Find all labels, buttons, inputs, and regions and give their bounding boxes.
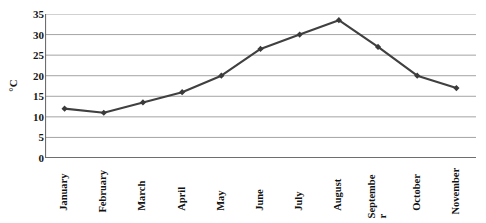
data-point-marker [101, 110, 107, 116]
data-point-marker [140, 99, 146, 105]
axis-lines [45, 14, 476, 158]
x-axis-tick-labels: JanuaryFebruaryMarchAprilMayJuneJulyAugu… [45, 160, 476, 223]
x-tick-label-text: October [412, 172, 423, 211]
x-tick-label: Septembe r [358, 160, 397, 223]
x-tick-label-text: July [294, 172, 305, 211]
series-line [65, 20, 457, 113]
x-tick-label-text: February [99, 170, 110, 213]
y-tick-label: 0 [18, 153, 44, 164]
data-point-marker [61, 106, 67, 112]
x-tick-label: January [45, 160, 84, 223]
data-point-marker [297, 31, 303, 37]
x-tick-label: June [241, 160, 280, 223]
y-tick-label: 5 [18, 132, 44, 143]
x-tick-label-text: May [216, 172, 227, 211]
data-point-marker [453, 85, 459, 91]
x-tick-label-text: January [59, 172, 70, 211]
x-tick-label-text: June [255, 172, 266, 211]
x-tick-label: March [123, 160, 162, 223]
x-tick-label-text: March [138, 172, 149, 211]
y-axis-title-text: °C [8, 79, 19, 91]
plot-svg [45, 14, 476, 158]
x-tick-label-text: Septembe r [368, 175, 389, 219]
y-axis-tick-labels: 05101520253035 [18, 14, 44, 158]
x-tick-label-text: August [334, 172, 345, 211]
x-tick-label: April [163, 160, 202, 223]
y-tick-label: 10 [18, 111, 44, 122]
x-tick-label: August [319, 160, 358, 223]
y-tick-label: 15 [18, 91, 44, 102]
temperature-line-chart: °C 05101520253035 JanuaryFebruaryMarchAp… [0, 0, 486, 223]
gridlines [45, 14, 476, 158]
data-series-temperature [61, 17, 459, 116]
y-tick-label: 35 [18, 9, 44, 20]
x-tick-label: May [202, 160, 241, 223]
x-tick-label: February [84, 160, 123, 223]
y-tick-label: 25 [18, 50, 44, 61]
x-tick-label-text: November [451, 168, 462, 215]
x-tick-label: October [398, 160, 437, 223]
data-point-marker [179, 89, 185, 95]
x-tick-label: November [437, 160, 476, 223]
y-tick-label: 30 [18, 29, 44, 40]
x-tick-label: July [280, 160, 319, 223]
x-tick-label-text: April [177, 172, 188, 211]
plot-area [45, 14, 476, 158]
y-tick-label: 20 [18, 70, 44, 81]
